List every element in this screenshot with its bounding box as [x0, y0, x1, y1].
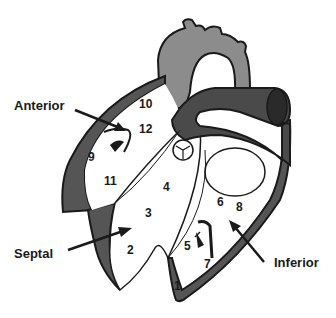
- label-septal: Septal: [14, 246, 53, 261]
- segment-6: 6: [217, 195, 224, 209]
- label-anterior: Anterior: [14, 98, 65, 113]
- pulmonary-opening: [267, 89, 287, 125]
- segment-9: 9: [88, 150, 95, 164]
- segment-4: 4: [163, 180, 170, 194]
- left-atrium: [205, 148, 265, 196]
- label-inferior: Inferior: [274, 255, 319, 270]
- segment-5: 5: [184, 239, 191, 253]
- segment-2: 2: [127, 243, 134, 257]
- segment-1: 1: [174, 279, 181, 293]
- heart-diagram: Anterior Septal Inferior 1 2 3 4 5 6 7 8…: [0, 0, 336, 318]
- segment-11: 11: [104, 174, 117, 188]
- segment-8: 8: [236, 200, 243, 214]
- segment-10: 10: [139, 97, 153, 111]
- segment-3: 3: [145, 206, 152, 220]
- segment-7: 7: [204, 257, 211, 271]
- segment-12: 12: [139, 122, 153, 136]
